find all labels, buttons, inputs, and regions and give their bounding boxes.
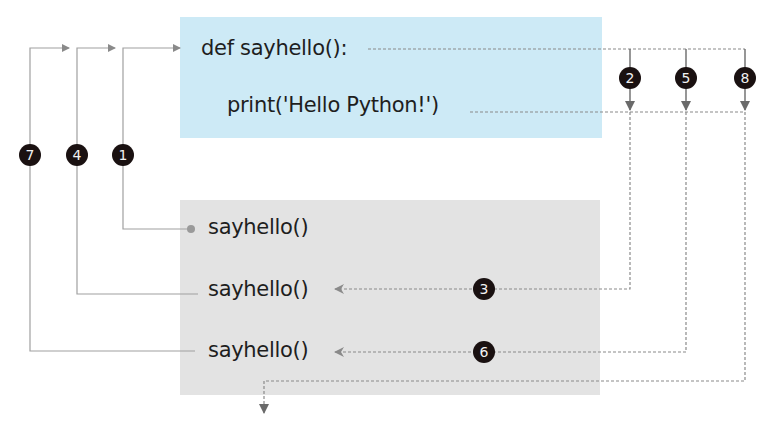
call-origin-dot <box>187 225 195 233</box>
call-path-7 <box>30 48 195 351</box>
def-signature: def sayhello(): <box>201 36 347 60</box>
step-badge-2: 2 <box>619 67 641 89</box>
flow-arrows <box>0 0 773 437</box>
def-body: print('Hello Python!') <box>227 93 439 117</box>
step-badge-1: 1 <box>112 144 134 166</box>
call-3: sayhello() <box>208 338 308 362</box>
step-badge-5: 5 <box>675 67 697 89</box>
call-path-4 <box>77 48 198 294</box>
call-path-1 <box>123 48 190 229</box>
step-badge-8: 8 <box>734 67 756 89</box>
call-2: sayhello() <box>208 277 308 301</box>
call-1: sayhello() <box>208 215 308 239</box>
step-badge-4: 4 <box>66 144 88 166</box>
step-badge-7: 7 <box>19 144 41 166</box>
step-badge-3: 3 <box>473 278 495 300</box>
step-badge-6: 6 <box>473 341 495 363</box>
